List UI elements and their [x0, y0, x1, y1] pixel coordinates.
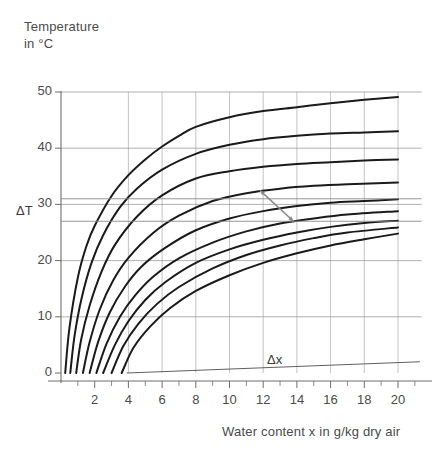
humidity-curve-curve-6: [96, 211, 398, 373]
humidity-curve-curve-9: [122, 234, 398, 373]
humidity-curve-curve-5: [90, 199, 398, 373]
x-axis-slope-line: [127, 362, 420, 373]
humidity-curve-curve-7: [103, 221, 398, 373]
chart-canvas: [0, 0, 443, 465]
humidity-curves: [65, 97, 398, 373]
humidity-curve-curve-3: [76, 159, 398, 373]
delta-arrow-line: [260, 190, 294, 221]
humidity-curve-curve-8: [112, 227, 398, 373]
psychrometric-chart: Temperature in °C ΔT Δx Water content x …: [0, 0, 443, 465]
humidity-curve-curve-4: [83, 182, 398, 373]
